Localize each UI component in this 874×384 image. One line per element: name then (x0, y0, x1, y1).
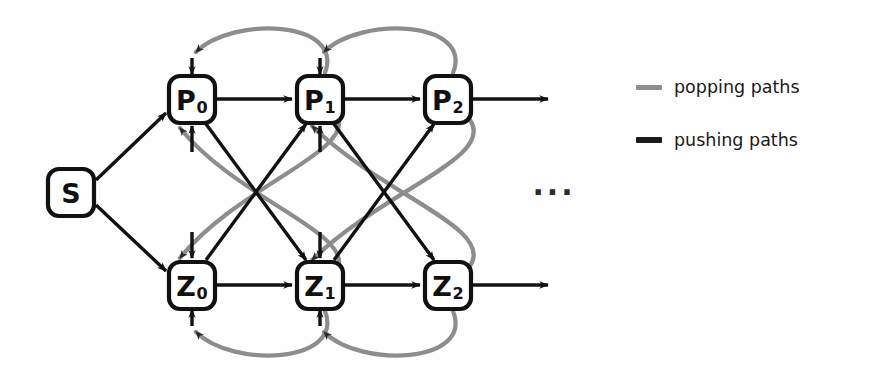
legend-item-popping: popping paths (636, 77, 800, 97)
legend-item-pushing: pushing paths (636, 130, 798, 150)
node-P1-label: P (304, 85, 324, 116)
popping-edge-z2-p1 (312, 126, 474, 266)
popping-edge-p2-p1 (324, 28, 456, 73)
continuation-ellipsis: ··· (532, 175, 575, 210)
popping-edge-z2-z1 (324, 311, 456, 356)
pushing-edge-s-p0 (96, 113, 166, 180)
node-Z1-subscript: 1 (324, 284, 335, 303)
node-P0-label: P (176, 85, 196, 116)
legend-swatch-pushing-icon (636, 137, 662, 143)
automaton-diagram: S P 0 P 1 P 2 Z 0 (0, 0, 874, 384)
node-P1[interactable]: P 1 (297, 76, 343, 123)
node-P2-label: P (432, 85, 452, 116)
node-Z2-label: Z (432, 271, 452, 302)
node-S[interactable]: S (48, 169, 94, 216)
node-P0-subscript: 0 (196, 98, 207, 117)
node-P2[interactable]: P 2 (425, 76, 471, 123)
node-Z0-subscript: 0 (196, 284, 207, 303)
legend-label-pushing: pushing paths (674, 130, 798, 150)
legend-label-popping: popping paths (674, 77, 800, 97)
popping-edge-p1-p0 (196, 28, 327, 73)
pushing-edge-s-z0 (96, 205, 166, 271)
node-Z0-label: Z (176, 271, 196, 302)
diagram-canvas: S P 0 P 1 P 2 Z 0 (0, 0, 874, 384)
node-Z0[interactable]: Z 0 (169, 262, 215, 309)
node-Z1[interactable]: Z 1 (297, 262, 343, 309)
legend-swatch-popping-icon (636, 85, 662, 90)
node-P1-subscript: 1 (324, 98, 335, 117)
popping-edge-z1-z0 (196, 311, 327, 356)
node-S-label: S (61, 178, 80, 209)
node-P2-subscript: 2 (452, 98, 463, 117)
node-Z2-subscript: 2 (452, 284, 463, 303)
node-Z1-label: Z (304, 271, 324, 302)
node-P0[interactable]: P 0 (169, 76, 215, 123)
popping-edge-p2-z1 (312, 120, 474, 260)
node-Z2[interactable]: Z 2 (425, 262, 471, 309)
